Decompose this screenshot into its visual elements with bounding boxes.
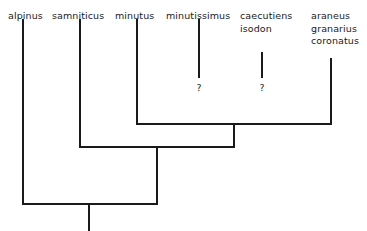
tip-label-araneus: araneus (311, 10, 359, 23)
question-mark-minutissimus: ? (193, 83, 205, 93)
tip-label-samniticus: samniticus (52, 10, 104, 23)
tip-label-minutissimus-line1: minutissimus (166, 10, 230, 23)
tip-label-caecutiens: caecutiens (240, 10, 292, 23)
tip-label-coronatus: coronatus (311, 35, 359, 48)
tip-label-araneus-group: araneus granarius coronatus (311, 10, 359, 48)
tip-label-granarius: granarius (311, 23, 359, 36)
tip-label-minutus-line1: minutus (115, 10, 154, 23)
question-mark-caecutiens: ? (256, 83, 268, 93)
tip-label-alpinus-line1: alpinus (8, 10, 43, 23)
tip-label-minutus: minutus (115, 10, 154, 23)
tip-label-isodon: isodon (240, 23, 292, 36)
tip-label-alpinus: alpinus (8, 10, 43, 23)
tip-label-samniticus-line1: samniticus (52, 10, 104, 23)
cladogram-diagram: alpinus samniticus minutus minutissimus … (0, 0, 367, 231)
tip-label-minutissimus: minutissimus (166, 10, 230, 23)
tip-label-caecutiens-isodon: caecutiens isodon (240, 10, 292, 35)
